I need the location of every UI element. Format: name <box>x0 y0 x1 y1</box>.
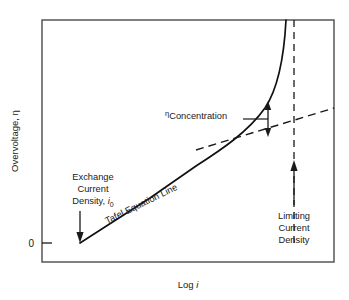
polarization-curve-svg: Exchange Current Density, i0 Tafel Equat… <box>0 0 349 300</box>
limiting-current-density-label-line1: Limiting <box>278 211 310 221</box>
y-axis-tick-label-zero: 0 <box>28 238 34 249</box>
chart-figure: Exchange Current Density, i0 Tafel Equat… <box>0 0 349 300</box>
limiting-current-density-label-line3: Density <box>278 235 309 245</box>
concentration-overvoltage-label: ηConcentration <box>165 109 227 121</box>
exchange-current-density-label-line2: Current <box>77 184 108 194</box>
x-axis-title: Log i <box>178 279 200 290</box>
y-axis-title: Overvoltage, η <box>9 110 20 172</box>
x-axis-title-italic: i <box>196 279 199 290</box>
limiting-current-density-label-line2: Current <box>278 223 309 233</box>
x-axis-title-main: Log <box>178 279 194 290</box>
exchange-current-density-label-line1: Exchange <box>72 172 113 182</box>
